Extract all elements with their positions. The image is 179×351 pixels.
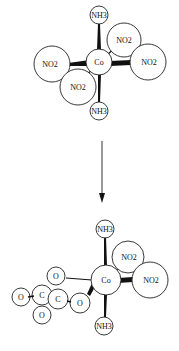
label-o-top: O — [53, 272, 59, 281]
bond-nh3-top — [97, 24, 101, 50]
label-o-far-left: O — [18, 293, 24, 302]
label-co: Co — [101, 276, 110, 285]
label-no2-lower-left: NO2 — [70, 83, 86, 92]
label-nh3-top: NH3 — [91, 11, 107, 20]
label-no2-right: NO2 — [141, 58, 157, 67]
product-complex: NH3 Co NO2 NO2 NH3 O O C C O O — [12, 220, 168, 335]
reaction-arrow — [99, 141, 105, 203]
bond-nh3-top — [104, 237, 107, 266]
label-nh3-top: NH3 — [97, 225, 113, 234]
label-nh3-bottom: NH3 — [96, 322, 112, 331]
label-o-bottom: O — [39, 311, 45, 320]
reaction-diagram: NH3 Co NO2 NO2 NO2 NO2 NH3 NH3 Co — [0, 0, 179, 351]
bond-nh3-bottom — [98, 74, 101, 102]
label-c-right: C — [55, 295, 60, 304]
label-o-right: O — [77, 299, 83, 308]
label-nh3-bottom: NH3 — [91, 107, 107, 116]
bond-no2-right — [110, 60, 131, 66]
bond-nh3-bottom — [104, 294, 107, 317]
label-no2-left: NO2 — [42, 60, 58, 69]
label-c-left: C — [39, 291, 44, 300]
reactant-complex: NH3 Co NO2 NO2 NO2 NO2 NH3 — [34, 6, 166, 120]
label-no2-upper-right: NO2 — [121, 253, 137, 262]
arrow-head-icon — [99, 193, 105, 203]
label-no2-right: NO2 — [143, 276, 159, 285]
label-no2-upper-right: NO2 — [116, 36, 132, 45]
label-co: Co — [94, 58, 103, 67]
